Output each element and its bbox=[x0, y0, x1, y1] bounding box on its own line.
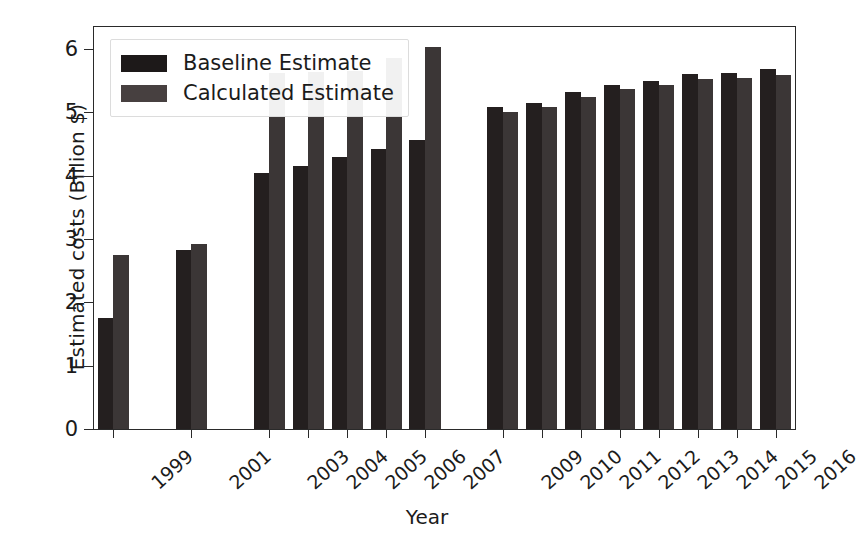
bar-calculated-2010 bbox=[542, 107, 558, 429]
bar-group-2012 bbox=[604, 27, 635, 429]
bar-calculated-2016 bbox=[776, 75, 792, 429]
bar-calculated-2007 bbox=[425, 47, 441, 429]
x-tick-2004 bbox=[308, 429, 309, 438]
bar-baseline-2013 bbox=[643, 81, 659, 429]
x-tick-2009 bbox=[503, 429, 504, 438]
x-tick-label-1999: 1999 bbox=[148, 446, 197, 492]
x-tick-label-2004: 2004 bbox=[343, 446, 392, 492]
x-tick-2013 bbox=[659, 429, 660, 438]
x-tick-label-2003: 2003 bbox=[304, 446, 353, 492]
bar-calculated-2015 bbox=[737, 78, 753, 429]
bar-calculated-2009 bbox=[503, 112, 519, 429]
y-tick-label-2: 2 bbox=[65, 292, 78, 313]
x-tick-2012 bbox=[620, 429, 621, 438]
bar-baseline-2007 bbox=[409, 140, 425, 429]
plot-area: Baseline Estimate Calculated Estimate 19… bbox=[93, 26, 796, 430]
x-axis-label: Year bbox=[0, 505, 854, 529]
bar-calculated-2004 bbox=[308, 72, 324, 429]
x-tick-label-2006: 2006 bbox=[421, 446, 470, 492]
y-tick-2 bbox=[84, 302, 94, 303]
bar-baseline-2014 bbox=[682, 74, 698, 429]
x-tick-2010 bbox=[542, 429, 543, 438]
bar-baseline-2016 bbox=[760, 69, 776, 429]
y-tick-0 bbox=[84, 429, 94, 430]
bar-calculated-2012 bbox=[620, 89, 636, 429]
x-tick-label-2009: 2009 bbox=[538, 446, 587, 492]
x-tick-2016 bbox=[776, 429, 777, 438]
y-tick-6 bbox=[84, 49, 94, 50]
y-tick-label-6: 6 bbox=[65, 39, 78, 60]
x-tick-label-2016: 2016 bbox=[810, 446, 859, 492]
bar-baseline-1999 bbox=[98, 318, 114, 429]
bar-baseline-2011 bbox=[565, 92, 581, 429]
legend-label-calculated: Calculated Estimate bbox=[183, 81, 394, 105]
bar-group-2015 bbox=[721, 27, 752, 429]
bar-calculated-2003 bbox=[269, 73, 285, 429]
bar-calculated-2013 bbox=[659, 85, 675, 429]
bar-baseline-2015 bbox=[721, 73, 737, 429]
x-tick-2005 bbox=[347, 429, 348, 438]
y-tick-label-0: 0 bbox=[65, 419, 78, 440]
legend-item-baseline: Baseline Estimate bbox=[121, 48, 394, 78]
x-tick-label-2010: 2010 bbox=[577, 446, 626, 492]
y-tick-4 bbox=[84, 176, 94, 177]
legend-label-baseline: Baseline Estimate bbox=[183, 51, 371, 75]
x-tick-2015 bbox=[737, 429, 738, 438]
y-tick-label-1: 1 bbox=[65, 355, 78, 376]
x-tick-2007 bbox=[425, 429, 426, 438]
bar-group-2013 bbox=[643, 27, 674, 429]
bar-baseline-2004 bbox=[293, 166, 309, 429]
bar-baseline-2012 bbox=[604, 85, 620, 429]
y-tick-label-4: 4 bbox=[65, 165, 78, 186]
legend-swatch-calculated bbox=[121, 85, 167, 102]
chart-legend: Baseline Estimate Calculated Estimate bbox=[110, 39, 409, 117]
bar-calculated-2001 bbox=[191, 244, 207, 429]
x-tick-label-2015: 2015 bbox=[772, 446, 821, 492]
bar-baseline-2010 bbox=[526, 103, 542, 429]
bar-baseline-2009 bbox=[487, 107, 503, 429]
x-tick-label-2007: 2007 bbox=[460, 446, 509, 492]
bar-group-2010 bbox=[526, 27, 557, 429]
bar-group-2009 bbox=[487, 27, 518, 429]
bar-baseline-2005 bbox=[332, 157, 348, 429]
x-tick-2011 bbox=[581, 429, 582, 438]
x-tick-1999 bbox=[113, 429, 114, 438]
legend-swatch-baseline bbox=[121, 55, 167, 72]
x-tick-2003 bbox=[269, 429, 270, 438]
bar-calculated-2014 bbox=[698, 79, 714, 429]
x-tick-2014 bbox=[698, 429, 699, 438]
bar-group-2011 bbox=[565, 27, 596, 429]
bar-baseline-2003 bbox=[254, 173, 270, 429]
bar-calculated-2005 bbox=[347, 71, 363, 429]
x-tick-2001 bbox=[191, 429, 192, 438]
x-tick-label-2012: 2012 bbox=[655, 446, 704, 492]
x-tick-label-2014: 2014 bbox=[733, 446, 782, 492]
y-tick-3 bbox=[84, 239, 94, 240]
bar-group-2007 bbox=[409, 27, 440, 429]
bar-calculated-1999 bbox=[113, 255, 129, 429]
y-tick-5 bbox=[84, 112, 94, 113]
x-tick-label-2005: 2005 bbox=[382, 446, 431, 492]
bar-group-2014 bbox=[682, 27, 713, 429]
x-tick-label-2001: 2001 bbox=[226, 446, 275, 492]
x-tick-2006 bbox=[386, 429, 387, 438]
bar-group-2016 bbox=[760, 27, 791, 429]
x-tick-label-2011: 2011 bbox=[616, 446, 665, 492]
x-tick-label-2013: 2013 bbox=[694, 446, 743, 492]
bar-baseline-2001 bbox=[176, 250, 192, 429]
y-tick-label-3: 3 bbox=[65, 229, 78, 250]
y-tick-label-5: 5 bbox=[65, 102, 78, 123]
bar-calculated-2011 bbox=[581, 97, 597, 429]
y-tick-1 bbox=[84, 366, 94, 367]
bar-baseline-2006 bbox=[371, 149, 387, 429]
legend-item-calculated: Calculated Estimate bbox=[121, 78, 394, 108]
